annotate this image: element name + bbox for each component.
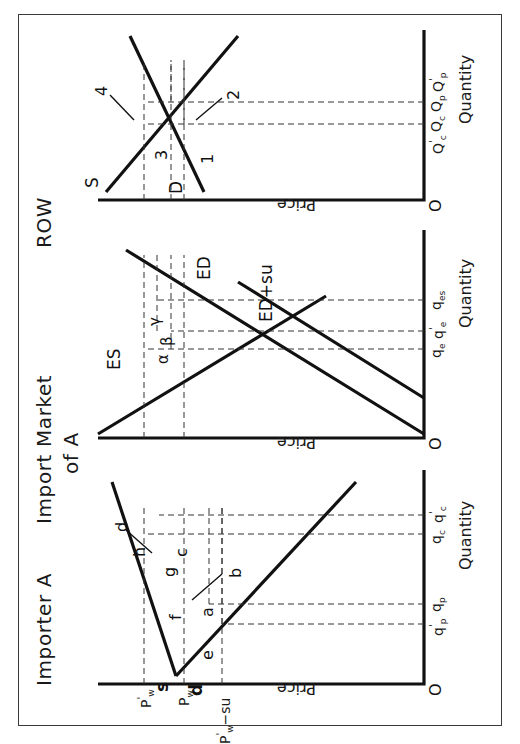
right-tick-qp-prime: Q'p — [428, 73, 448, 93]
right-panel-group — [98, 30, 424, 200]
middle-ed-curve-label: ED — [194, 256, 214, 280]
left-demand-curve — [176, 482, 356, 676]
right-leader-4 — [110, 95, 134, 120]
right-quantity-axis-label: Quantity — [456, 55, 475, 124]
right-region-1: 1 — [198, 154, 217, 164]
left-region-e: e — [198, 650, 217, 660]
left-panel-axes — [98, 470, 424, 684]
middle-panel-group — [98, 230, 424, 438]
left-supply-curve-label: s — [152, 682, 172, 692]
left-region-d: d — [112, 522, 131, 532]
right-demand-curve — [130, 36, 204, 192]
right-tick-qc: Qc — [428, 116, 447, 132]
right-supply-curve — [106, 36, 238, 192]
left-region-b: b — [226, 568, 245, 578]
left-tick-pw-prime-minus-su: P'w−su — [215, 698, 235, 744]
left-demand-curve-label: d — [186, 684, 206, 696]
right-region-2: 2 — [224, 90, 243, 100]
middle-region-gamma: γ — [146, 317, 164, 326]
middle-region-beta: β — [158, 336, 176, 346]
middle-ed-plus-su-curve-label: ED+su — [256, 264, 276, 322]
left-panel-group — [98, 470, 424, 684]
left-region-a: a — [198, 607, 217, 617]
left-leader-b — [192, 574, 222, 600]
left-origin-label: O — [426, 683, 445, 696]
left-region-g: g — [160, 567, 179, 577]
right-price-axis-label: Price — [277, 195, 316, 214]
middle-region-alpha: α — [154, 354, 172, 364]
right-tick-qp: Qp — [428, 95, 447, 112]
left-tick-qp: qp — [428, 597, 447, 612]
right-region-4: 4 — [92, 86, 111, 96]
right-origin-label: O — [426, 199, 445, 212]
left-tick-pw-prime: P'w — [136, 689, 156, 708]
right-leader-2 — [196, 98, 222, 120]
left-tick-qp-prime: q'p — [428, 619, 448, 636]
left-price-axis-label: Price — [277, 679, 316, 698]
middle-tick-qe-prime: q'e — [428, 322, 448, 339]
right-demand-curve-label: D — [166, 181, 186, 194]
figure-border: Importer A Import Market of A ROW — [18, 14, 502, 726]
left-region-f: f — [166, 614, 185, 620]
left-tick-qc-prime: q'c — [428, 506, 448, 523]
diagram-canvas: Importer A Import Market of A ROW — [26, 20, 494, 720]
right-supply-curve-label: S — [82, 177, 102, 188]
left-tick-qc: qc — [428, 530, 447, 544]
right-panel-axes — [98, 30, 424, 200]
middle-origin-label: O — [426, 437, 445, 450]
left-region-h: h — [130, 547, 149, 557]
right-tick-qc-prime: Q'c — [428, 135, 448, 154]
right-region-3: 3 — [152, 150, 171, 160]
middle-tick-qe: qe — [428, 344, 447, 358]
left-quantity-axis-label: Quantity — [456, 501, 475, 570]
rotated-diagram-wrapper: Importer A Import Market of A ROW — [26, 20, 494, 720]
middle-quantity-axis-label: Quantity — [456, 259, 475, 328]
middle-es-curve-label: ES — [104, 348, 124, 370]
left-region-c: c — [172, 548, 191, 557]
middle-price-axis-label: Price — [277, 433, 316, 452]
middle-tick-qes: qes — [428, 291, 447, 310]
diagram-svg — [26, 20, 494, 720]
